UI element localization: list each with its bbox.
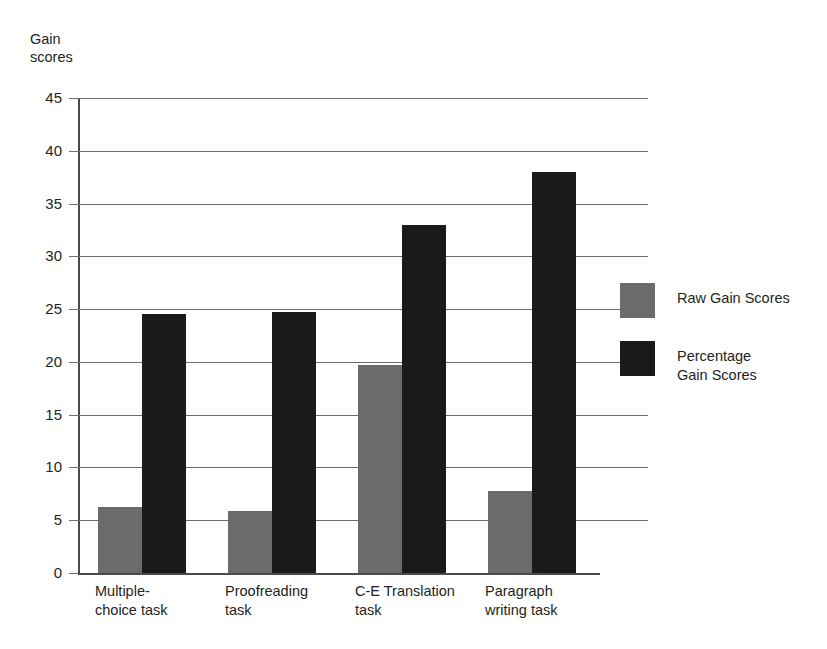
y-axis-tick-mark <box>69 309 78 310</box>
y-axis-tick-label: 20 <box>28 353 62 370</box>
y-axis-tick-label: 10 <box>28 458 62 475</box>
y-axis-tick-mark <box>69 415 78 416</box>
y-axis-tick-label: 5 <box>28 511 62 528</box>
x-axis-category-label: Proofreading task <box>225 582 308 620</box>
legend-label-raw-gain-scores: Raw Gain Scores <box>677 283 790 308</box>
legend-item-raw-gain-scores: Raw Gain Scores <box>620 283 790 318</box>
x-axis-baseline <box>78 573 600 575</box>
bar <box>358 365 402 573</box>
y-axis-tick-label: 35 <box>28 195 62 212</box>
chart-legend: Raw Gain Scores Percentage Gain Scores <box>620 283 790 408</box>
bar <box>142 314 186 573</box>
plot-area <box>78 98 648 573</box>
y-axis-tick-label: 0 <box>28 564 62 581</box>
y-axis-tick-label: 45 <box>28 89 62 106</box>
y-axis-tick-label: 30 <box>28 247 62 264</box>
y-axis-tick-mark <box>69 520 78 521</box>
y-axis-tick-mark <box>69 98 78 99</box>
y-axis-tick-label: 15 <box>28 406 62 423</box>
bar <box>532 172 576 573</box>
bar <box>402 225 446 573</box>
bar-chart: Gain scores 454035302520151050 Multiple-… <box>0 0 827 649</box>
bar <box>98 507 142 574</box>
x-axis-category-label: C-E Translation task <box>355 582 455 620</box>
bar <box>272 312 316 573</box>
y-axis-tick-mark <box>69 573 78 574</box>
bars-layer <box>78 98 648 573</box>
y-axis-tick-label: 25 <box>28 300 62 317</box>
legend-swatch-raw-gain-scores <box>620 283 655 318</box>
y-axis-title: Gain scores <box>30 30 73 66</box>
y-axis-tick-labels: 454035302520151050 <box>0 98 62 574</box>
bar <box>228 511 272 573</box>
x-axis-category-labels: Multiple- choice taskProofreading taskC-… <box>78 582 648 642</box>
legend-item-percentage-gain-scores: Percentage Gain Scores <box>620 341 790 385</box>
y-axis-tick-mark <box>69 467 78 468</box>
y-axis-tick-mark <box>69 204 78 205</box>
y-axis-tick-mark <box>69 256 78 257</box>
x-axis-category-label: Multiple- choice task <box>95 582 168 620</box>
bar <box>488 491 532 573</box>
y-axis-tick-mark <box>69 362 78 363</box>
legend-label-percentage-gain-scores: Percentage Gain Scores <box>677 341 757 385</box>
y-axis-tick-mark <box>69 151 78 152</box>
legend-swatch-percentage-gain-scores <box>620 341 655 376</box>
x-axis-category-label: Paragraph writing task <box>485 582 558 620</box>
y-axis-tick-label: 40 <box>28 142 62 159</box>
